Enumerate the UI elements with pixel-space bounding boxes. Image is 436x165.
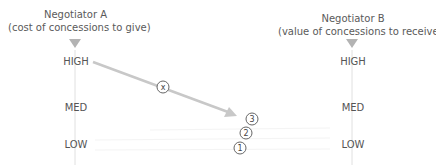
axis-b-med-label: MED [342, 102, 365, 113]
marker-x: x [157, 81, 170, 94]
axis-a-med-label: MED [65, 102, 88, 113]
faint-guide-lines [95, 128, 330, 150]
axis-b-low-label: LOW [342, 139, 365, 150]
negotiator-b-subtitle: (value of concessions to receive) [278, 25, 428, 38]
negotiator-a-title: Negotiator A (cost of concessions to giv… [8, 8, 143, 34]
axis-b-triangle-icon [346, 39, 358, 48]
negotiator-b-title: Negotiator B (value of concessions to re… [278, 12, 428, 38]
negotiator-b-name: Negotiator B [278, 12, 428, 25]
axis-a-high-label: HIGH [63, 56, 89, 67]
marker-3: 3 [246, 113, 259, 126]
marker-2: 2 [240, 127, 253, 140]
negotiator-a-name: Negotiator A [8, 8, 143, 21]
axis-a-low-label: LOW [65, 139, 88, 150]
axis-b-high-label: HIGH [340, 56, 366, 67]
negotiator-a-subtitle: (cost of concessions to give) [8, 21, 143, 34]
axis-a-triangle-icon [69, 39, 81, 48]
marker-1: 1 [234, 142, 247, 155]
